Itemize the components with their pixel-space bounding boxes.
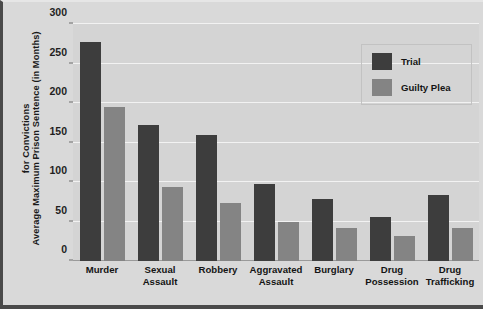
x-axis-labels: MurderSexualAssaultRobberyAggravatedAssa… <box>73 264 479 287</box>
bar-group <box>131 24 189 261</box>
x-axis-tick-label: DrugTrafficking <box>421 264 479 287</box>
bar <box>254 184 275 261</box>
bar <box>196 135 217 261</box>
legend-label-trial: Trial <box>401 56 421 67</box>
y-axis-tick-label: 50 <box>31 204 67 216</box>
bar-group <box>247 24 305 261</box>
bar <box>162 187 183 261</box>
x-axis-tick-label: Murder <box>73 264 131 287</box>
x-axis-tick-label: AggravatedAssault <box>247 264 305 287</box>
x-axis-tick-label: Robbery <box>189 264 247 287</box>
x-axis-tick-label: SexualAssault <box>131 264 189 287</box>
bar-chart-figure: Average Maximum Prison Sentence (in Mont… <box>0 0 483 309</box>
bar-group <box>305 24 363 261</box>
y-axis-title: Average Maximum Prison Sentence (in Mont… <box>9 2 53 274</box>
bar <box>370 217 391 261</box>
bar <box>278 222 299 261</box>
legend-item-guilty-plea: Guilty Plea <box>372 79 471 96</box>
legend-swatch-trial-icon <box>372 53 392 70</box>
y-axis-tick-label: 300 <box>31 6 67 18</box>
bar <box>312 199 333 261</box>
bar <box>138 125 159 261</box>
legend: Trial Guilty Plea <box>361 44 472 105</box>
legend-swatch-guilty-plea-icon <box>372 79 392 96</box>
bar <box>220 203 241 261</box>
bar <box>336 228 357 261</box>
bar-group <box>73 24 131 261</box>
bar-group <box>189 24 247 261</box>
legend-item-trial: Trial <box>372 53 471 70</box>
bar <box>394 236 415 261</box>
bar <box>452 228 473 261</box>
y-axis-tick-label: 100 <box>31 164 67 176</box>
bar <box>104 107 125 261</box>
legend-label-guilty-plea: Guilty Plea <box>401 82 451 93</box>
x-axis-tick-label: DrugPossession <box>363 264 421 287</box>
x-axis-tick-label: Burglary <box>305 264 363 287</box>
y-axis-tick-label: 0 <box>31 243 67 255</box>
bar <box>428 195 449 261</box>
y-axis-tick-label: 200 <box>31 85 67 97</box>
y-axis-title-line-2: for Convictions <box>21 103 31 173</box>
bar <box>80 42 101 261</box>
y-axis-tick-label: 150 <box>31 125 67 137</box>
y-axis-tick-label: 250 <box>31 46 67 58</box>
